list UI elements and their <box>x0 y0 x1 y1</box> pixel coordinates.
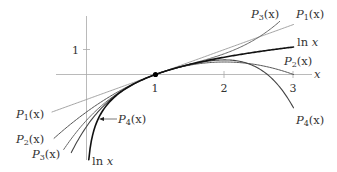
curve-p3 <box>64 21 280 149</box>
curves <box>52 21 294 159</box>
label-ln-bottom: ln x <box>92 154 114 168</box>
curve-p2 <box>54 62 293 138</box>
x-tick-label-2: 2 <box>221 82 228 95</box>
x-tick-label-1: 1 <box>152 82 159 95</box>
p4-arrowhead-icon <box>99 117 104 121</box>
axes: 1 1 2 3 x <box>56 16 321 160</box>
label-p4-right: P4(x) <box>295 113 324 128</box>
label-p2-left: P2(x) <box>15 132 44 147</box>
label-p1-right: P1(x) <box>295 7 324 22</box>
label-p3-right: P3(x) <box>250 7 279 22</box>
label-p1-left: P1(x) <box>15 107 44 122</box>
taylor-polynomials-chart: 1 1 2 3 x P3(x) P1(x) ln x P2(x) P4(x) P… <box>0 0 337 172</box>
curve-ln <box>89 47 294 160</box>
x-axis-label: x <box>314 67 321 81</box>
curve-labels: P3(x) P1(x) ln x P2(x) P4(x) P1(x) P2(x)… <box>15 7 324 168</box>
expansion-point <box>153 72 158 77</box>
y-tick-label-1: 1 <box>72 44 79 57</box>
label-ln-right: ln x <box>297 35 319 49</box>
x-tick-label-3: 3 <box>290 82 297 95</box>
curve-p4 <box>71 60 293 153</box>
label-p2-right: P2(x) <box>283 54 312 69</box>
label-p3-left: P3(x) <box>31 147 60 162</box>
label-p4-arrow: P4(x) <box>117 112 146 127</box>
